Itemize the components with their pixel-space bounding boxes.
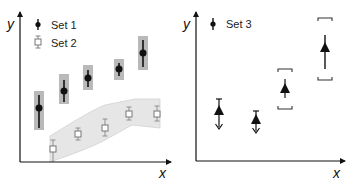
figure: y x Set 1 Set 2 — [0, 0, 357, 185]
right-legend: Set 3 — [210, 18, 251, 30]
right-x-axis-label: x — [332, 165, 341, 181]
set2-point — [75, 131, 81, 137]
right-panel: y x Set 3 — [182, 12, 345, 181]
set2-point — [126, 111, 132, 117]
left-panel: y x Set 1 Set 2 — [6, 12, 171, 181]
set3-point — [251, 111, 261, 133]
set1-point — [36, 105, 43, 112]
set1-point — [116, 66, 123, 73]
set1-point — [85, 75, 92, 82]
legend-set2-label: Set 2 — [51, 37, 77, 49]
legend-set3-label: Set 3 — [226, 18, 252, 30]
right-y-axis-label: y — [182, 16, 191, 32]
set1-point — [61, 88, 68, 95]
legend-set2-icon — [35, 36, 41, 48]
left-y-axis-label: y — [6, 16, 15, 32]
legend-set1-label: Set 1 — [51, 19, 77, 31]
left-legend: Set 1 Set 2 — [35, 19, 77, 49]
set3-point — [278, 69, 292, 109]
set1-point — [140, 50, 147, 57]
left-x-axis-label: x — [158, 165, 167, 181]
set3-point — [318, 18, 332, 80]
set2-point — [102, 125, 108, 131]
set3-point — [214, 99, 224, 129]
set2-point — [50, 146, 56, 152]
legend-set3-icon — [210, 18, 215, 30]
legend-set1-icon — [35, 19, 40, 30]
set2-point — [154, 111, 160, 117]
